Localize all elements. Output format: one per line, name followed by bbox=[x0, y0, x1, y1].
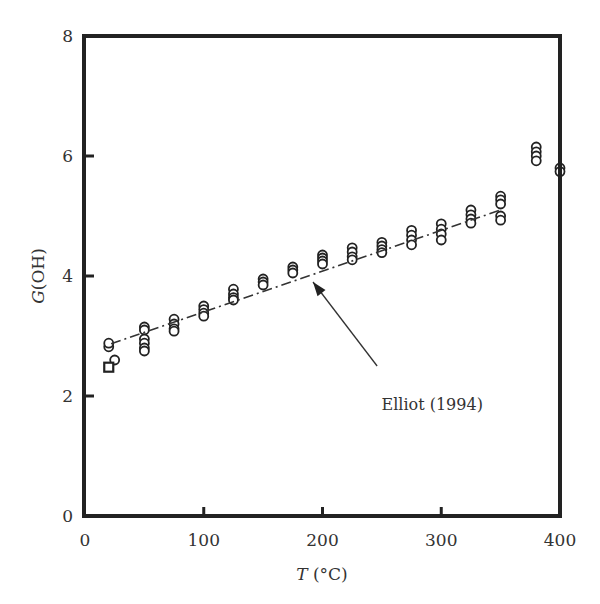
y-tick-label: 6 bbox=[62, 146, 73, 166]
data-point-circle bbox=[437, 236, 446, 245]
data-point-circle bbox=[288, 269, 297, 278]
data-point-circle bbox=[496, 200, 505, 209]
x-axis-label: T (°C) bbox=[296, 564, 348, 584]
data-point-circle bbox=[140, 347, 149, 356]
data-layer bbox=[104, 143, 564, 372]
x-tick-label: 400 bbox=[544, 530, 576, 550]
arrowhead-icon bbox=[313, 282, 325, 296]
y-axis-label: G(OH) bbox=[28, 248, 48, 304]
data-point-circle bbox=[170, 327, 179, 336]
data-point-circle bbox=[532, 156, 541, 165]
annotation-arrow-shaft bbox=[313, 282, 377, 366]
data-point-circle bbox=[318, 260, 327, 269]
annotation-label: Elliot (1994) bbox=[382, 395, 483, 414]
data-point-circle bbox=[348, 255, 357, 264]
data-point-circle bbox=[259, 281, 268, 290]
y-tick-label: 4 bbox=[62, 266, 73, 286]
plot-frame bbox=[84, 36, 560, 516]
data-point-square bbox=[104, 363, 113, 372]
y-tick-label: 2 bbox=[62, 386, 73, 406]
y-tick-label: 0 bbox=[62, 506, 73, 526]
annotation: Elliot (1994) bbox=[313, 282, 483, 414]
chart: Elliot (1994) 010020030040002468 T (°C) … bbox=[0, 0, 600, 604]
elliot-1994-line bbox=[111, 210, 501, 344]
data-point-circle bbox=[496, 216, 505, 225]
x-tick-label: 200 bbox=[306, 530, 338, 550]
reference-line bbox=[111, 210, 501, 344]
y-tick-label: 8 bbox=[62, 26, 73, 46]
x-tick-label: 0 bbox=[80, 530, 91, 550]
x-tick-label: 300 bbox=[425, 530, 457, 550]
x-tick-label: 100 bbox=[188, 530, 220, 550]
